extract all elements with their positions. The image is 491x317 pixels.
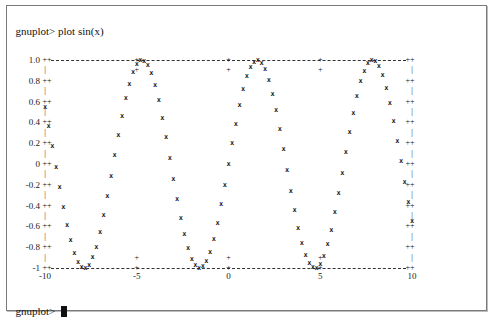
x-tick-mark: +: [226, 254, 231, 262]
data-point: x: [179, 214, 183, 222]
y-tick-label: 1.0: [29, 56, 40, 65]
data-point: x: [278, 125, 282, 133]
data-point: x: [296, 224, 300, 232]
y-tick-label: -0.6: [26, 222, 40, 231]
x-tick-mark: +: [226, 56, 231, 64]
data-point: x: [362, 67, 366, 75]
y-minor-tick: |: [411, 170, 413, 178]
data-point: x: [410, 217, 414, 225]
data-point: x: [105, 192, 109, 200]
x-tick-label: -10: [39, 272, 51, 281]
data-point: x: [54, 163, 58, 171]
y-tick-mark: ++: [42, 160, 51, 168]
data-point: x: [131, 68, 135, 76]
x-tick-label: 10: [408, 272, 417, 281]
data-point: x: [175, 195, 179, 203]
y-minor-tick: |: [44, 129, 46, 137]
data-point: x: [113, 151, 117, 159]
data-point: x: [388, 99, 392, 107]
input-prompt-line[interactable]: gnuplot>: [10, 293, 67, 317]
y-tick-mark: ++: [405, 118, 414, 126]
y-minor-tick: |: [44, 254, 46, 262]
data-point: x: [234, 120, 238, 128]
y-minor-tick: |: [411, 66, 413, 74]
data-point: x: [285, 166, 289, 174]
data-point: x: [61, 203, 65, 211]
data-point: x: [120, 112, 124, 120]
y-minor-tick: |: [44, 191, 46, 199]
data-point: x: [109, 172, 113, 180]
y-tick-label: 0: [36, 160, 41, 169]
data-point: x: [403, 178, 407, 186]
y-tick-mark: ++: [405, 181, 414, 189]
data-point: x: [303, 251, 307, 259]
data-point: x: [149, 69, 153, 77]
data-point: x: [91, 253, 95, 261]
data-point: x: [171, 175, 175, 183]
data-point: x: [325, 240, 329, 248]
data-point: x: [226, 160, 230, 168]
data-point: x: [65, 221, 69, 229]
data-point: x: [274, 106, 278, 114]
y-minor-tick: |: [411, 129, 413, 137]
data-point: x: [127, 80, 131, 88]
data-point: x: [208, 248, 212, 256]
data-point: x: [215, 219, 219, 227]
data-point: x: [384, 84, 388, 92]
prompt-text: gnuplot>: [16, 305, 59, 317]
text-cursor: [61, 306, 67, 317]
y-minor-tick: |: [44, 233, 46, 241]
data-point: x: [58, 183, 62, 191]
data-point: x: [245, 72, 249, 80]
y-tick-label: -0.4: [26, 201, 40, 210]
x-tick-label: 5: [318, 272, 323, 281]
data-point: x: [377, 62, 381, 70]
y-minor-tick: |: [44, 170, 46, 178]
y-tick-mark: ++: [405, 160, 414, 168]
data-point: x: [87, 261, 91, 269]
data-point: x: [322, 252, 326, 260]
data-point: x: [348, 128, 352, 136]
data-point: x: [72, 249, 76, 257]
y-tick-mark: ++: [405, 98, 414, 106]
data-point: x: [406, 198, 410, 206]
x-tick-label: -5: [133, 272, 141, 281]
data-point: x: [344, 148, 348, 156]
y-tick-mark: ++: [42, 243, 51, 251]
data-point: x: [43, 103, 47, 111]
y-tick-label: 0.2: [29, 139, 40, 148]
data-point: x: [340, 169, 344, 177]
data-point: x: [281, 145, 285, 153]
x-tick-mark: +: [318, 56, 323, 64]
y-tick-mark: ++: [42, 56, 51, 64]
data-point: x: [351, 109, 355, 117]
data-point: x: [186, 244, 190, 252]
y-tick-mark: ++: [42, 77, 51, 85]
x-tick-mark: +: [134, 264, 139, 272]
data-point: x: [164, 133, 168, 141]
data-point: x: [300, 239, 304, 247]
data-point: x: [241, 85, 245, 93]
y-tick-mark: ++: [42, 181, 51, 189]
data-point: x: [98, 228, 102, 236]
data-point: x: [359, 77, 363, 85]
y-tick-label: 0.4: [29, 118, 40, 127]
y-tick-label: -0.2: [26, 180, 40, 189]
y-tick-label: 0.8: [29, 76, 40, 85]
data-point: x: [168, 154, 172, 162]
data-point: x: [146, 61, 150, 69]
x-tick-mark: +: [134, 254, 139, 262]
y-minor-tick: |: [411, 191, 413, 199]
data-point: x: [230, 139, 234, 147]
data-point: x: [69, 236, 73, 244]
y-minor-tick: |: [411, 87, 413, 95]
data-point: x: [399, 157, 403, 165]
data-point: x: [153, 81, 157, 89]
data-point: x: [395, 137, 399, 145]
data-point: x: [102, 211, 106, 219]
y-minor-tick: |: [44, 150, 46, 158]
x-tick-mark: +: [226, 66, 231, 74]
data-point: x: [381, 71, 385, 79]
data-point: x: [47, 122, 51, 130]
